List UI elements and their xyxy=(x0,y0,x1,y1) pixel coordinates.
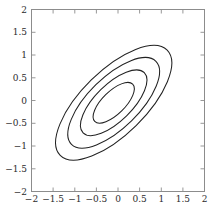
x-tick-label-1: 1 xyxy=(158,195,164,204)
y-tick-label-0-5: 0.5 xyxy=(0,73,27,82)
y-tick-label-1-5: 1.5 xyxy=(0,28,27,37)
y-tick-label-2: 2 xyxy=(0,5,27,14)
caption-fragment xyxy=(0,206,214,214)
plot-frame xyxy=(32,10,205,192)
x-tick-label-1-5: 1.5 xyxy=(176,195,190,204)
y-tick-label-neg-0-5: −0.5 xyxy=(0,119,27,128)
x-tick-label-0: 0 xyxy=(115,195,121,204)
x-tick-label-neg-2: −2 xyxy=(25,195,38,204)
y-tick-label-1: 1 xyxy=(0,51,27,60)
y-tick-label-neg-1-5: −1.5 xyxy=(0,164,27,173)
contour-plot xyxy=(0,0,214,214)
x-tick-label-2: 2 xyxy=(202,195,208,204)
y-tick-label-neg-2: −2 xyxy=(0,187,27,196)
y-tick-label-0: 0 xyxy=(0,96,27,105)
x-tick-label-neg-0-5: −0.5 xyxy=(85,195,107,204)
x-tick-label-neg-1: −1 xyxy=(68,195,81,204)
x-tick-label-neg-1-5: −1.5 xyxy=(42,195,64,204)
figure-root: 2 1.5 1 0.5 0 −0.5 −1 −1.5 −2 −2 −1.5 −1… xyxy=(0,0,214,214)
y-tick-label-neg-1: −1 xyxy=(0,142,27,151)
x-tick-label-0-5: 0.5 xyxy=(132,195,146,204)
